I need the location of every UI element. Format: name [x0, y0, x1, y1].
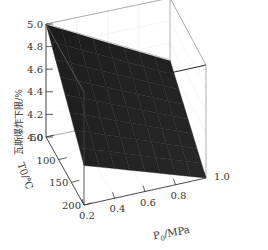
y-tick — [71, 180, 79, 182]
y-tick — [59, 158, 67, 160]
surface-layer — [46, 24, 206, 178]
x-tick-label: 0.8 — [171, 190, 187, 201]
z-tick-label: 5.0 — [27, 19, 43, 30]
z-tick-label: 4.6 — [27, 64, 43, 75]
box-edge — [170, 0, 206, 65]
z-tick-label: 4.2 — [27, 109, 43, 120]
x-tick-label: 0.2 — [79, 210, 95, 221]
y-tick-label: 150 — [49, 177, 68, 188]
z-tick-label: 4.4 — [27, 86, 43, 97]
surface-chart: 4.04.24.44.64.85.0501001502000.20.40.60.… — [0, 0, 268, 250]
x-tick-label: 0.6 — [140, 197, 156, 208]
x-tick-label: 1.0 — [214, 171, 230, 182]
z-tick-label: 4.8 — [27, 41, 43, 52]
z-axis-title: 瓦斯爆炸下限/% — [13, 89, 24, 155]
y-tick-label: 50 — [30, 132, 43, 143]
x-axis-title: P0/MPa — [152, 224, 191, 244]
y-axis-line — [46, 137, 84, 205]
x-axis-title-unit: /MPa — [163, 224, 190, 239]
y-tick-label: 100 — [37, 155, 56, 166]
y-axis-title: T0/℃ — [15, 161, 35, 191]
y-tick — [84, 203, 92, 205]
x-tick-label: 0.4 — [110, 203, 126, 214]
